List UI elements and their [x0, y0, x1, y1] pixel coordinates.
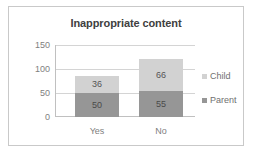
- bar-segment-yes-child[interactable]: 36: [75, 76, 119, 93]
- legend-label-parent: Parent: [210, 95, 237, 105]
- chart-title: Inappropriate content: [9, 17, 243, 29]
- bar-label-yes-parent: 50: [92, 100, 102, 110]
- bar-segment-no-parent[interactable]: 55: [139, 91, 183, 117]
- x-axis-tick-no: No: [139, 126, 183, 136]
- bar-segment-no-child[interactable]: 66: [139, 59, 183, 91]
- chart-container: Inappropriate content 150 100 50 0 36 50…: [8, 6, 244, 146]
- square-swatch-icon: [202, 74, 207, 79]
- legend-label-child: Child: [210, 71, 231, 81]
- bar-label-yes-child: 36: [92, 79, 102, 89]
- bar-label-no-child: 66: [156, 70, 166, 80]
- y-axis-tick-150: 150: [35, 40, 50, 50]
- legend-item-parent[interactable]: Parent: [202, 95, 244, 105]
- legend-item-child[interactable]: Child: [202, 71, 244, 81]
- bar-segment-yes-parent[interactable]: 50: [75, 93, 119, 117]
- y-axis-tick-0: 0: [45, 112, 50, 122]
- y-axis-tick-50: 50: [40, 88, 50, 98]
- plot-area: 150 100 50 0 36 50 Yes 66 55 No: [55, 45, 195, 117]
- square-swatch-icon: [202, 98, 207, 103]
- gridline-150: [55, 45, 195, 46]
- y-axis-tick-100: 100: [35, 64, 50, 74]
- bar-group-no[interactable]: 66 55 No: [139, 59, 183, 117]
- bar-group-yes[interactable]: 36 50 Yes: [75, 76, 119, 117]
- y-axis-line: [55, 45, 56, 117]
- x-axis-tick-yes: Yes: [75, 126, 119, 136]
- chart-legend: Child Parent: [202, 71, 244, 119]
- bar-label-no-parent: 55: [156, 99, 166, 109]
